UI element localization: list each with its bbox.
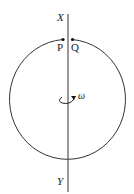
- angular-velocity-label: ω: [78, 91, 85, 101]
- rotation-arrow-icon: [60, 97, 75, 104]
- diagram-canvas: [0, 0, 134, 194]
- ring-rotation-diagram: X Y P Q ω: [0, 0, 134, 194]
- point-p-label: P: [57, 42, 63, 53]
- point-q-label: Q: [71, 42, 79, 53]
- axis-top-label: X: [57, 12, 64, 23]
- axis-bottom-label: Y: [57, 176, 63, 187]
